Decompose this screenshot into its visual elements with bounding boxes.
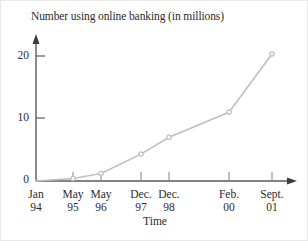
y-tick-label-0: 0 bbox=[7, 173, 29, 185]
x-tick-label-may-96-line1: May bbox=[90, 188, 111, 200]
data-point-may-96 bbox=[99, 171, 103, 175]
x-axis-title: Time bbox=[1, 215, 308, 227]
chart-figure: Number using online banking (in millions… bbox=[0, 0, 308, 241]
data-point-may-95 bbox=[71, 176, 75, 180]
data-point-sept-01 bbox=[270, 52, 274, 56]
y-tick-label-20: 20 bbox=[7, 49, 29, 61]
x-tick-label-feb-00-line2: 00 bbox=[206, 201, 252, 214]
data-markers bbox=[71, 52, 274, 181]
x-tick-label-dec-98: Dec. 98 bbox=[146, 188, 192, 214]
data-series-line bbox=[36, 54, 272, 181]
data-point-dec-97 bbox=[139, 152, 143, 156]
x-tick-label-sept-01-line2: 01 bbox=[249, 201, 295, 214]
x-tick-label-dec-98-line2: 98 bbox=[146, 201, 192, 214]
x-tick-label-sept-01-line1: Sept. bbox=[260, 188, 283, 200]
x-tick-label-jan-94-line1: Jan bbox=[28, 188, 43, 200]
x-tick-label-feb-00-line1: Feb. bbox=[219, 188, 239, 200]
data-point-feb-00 bbox=[227, 110, 231, 114]
y-axis-arrowhead bbox=[33, 34, 40, 44]
x-tick-label-feb-00: Feb. 00 bbox=[206, 188, 252, 214]
x-tick-label-dec-98-line1: Dec. bbox=[158, 188, 179, 200]
x-axis-arrowhead bbox=[287, 178, 297, 185]
x-tick-label-sept-01: Sept. 01 bbox=[249, 188, 295, 214]
data-point-dec-98 bbox=[167, 135, 171, 139]
y-tick-label-10: 10 bbox=[7, 111, 29, 123]
